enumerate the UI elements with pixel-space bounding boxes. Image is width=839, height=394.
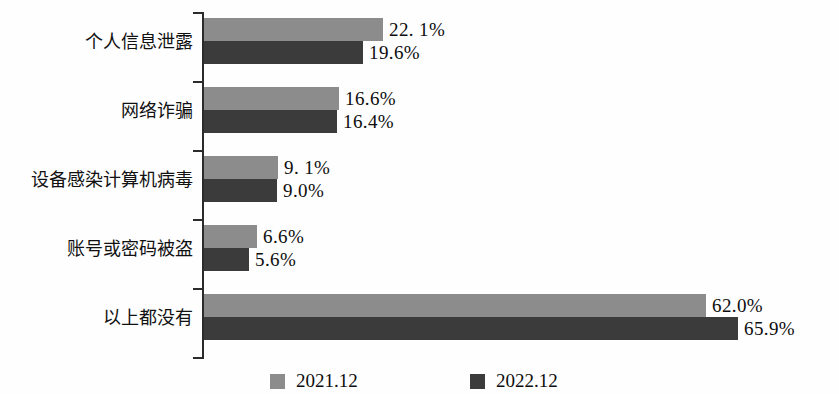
- axis-tick: [193, 81, 203, 83]
- axis-tick: [193, 357, 203, 359]
- bar-value-2022-12-4: 65.9%: [744, 317, 795, 340]
- legend-label-2021-12: 2021.12: [296, 370, 358, 392]
- bar-value-2022-12-3: 5.6%: [255, 248, 296, 271]
- legend-swatch-icon-2022-12: [470, 374, 485, 389]
- category-label-2: 设备感染计算机病毒: [0, 170, 193, 190]
- legend-label-2022-12: 2022.12: [496, 370, 558, 392]
- bar-value-2021-12-2: 9. 1%: [284, 156, 330, 179]
- bar-chart: 个人信息泄露 22. 1% 19.6% 网络诈骗 16.6% 16.4% 设备感…: [0, 0, 839, 394]
- bar-2021-12-3: [204, 225, 257, 248]
- bar-value-2022-12-0: 19.6%: [369, 41, 420, 64]
- category-label-1: 网络诈骗: [0, 101, 193, 121]
- category-label-0: 个人信息泄露: [0, 32, 193, 52]
- axis-tick: [193, 219, 203, 221]
- bar-value-2022-12-1: 16.4%: [343, 110, 394, 133]
- bar-value-2021-12-4: 62.0%: [712, 294, 763, 317]
- bar-2022-12-1: [204, 110, 337, 133]
- bar-2021-12-4: [204, 294, 706, 317]
- bar-2022-12-0: [204, 41, 363, 64]
- bar-2021-12-1: [204, 87, 339, 110]
- category-label-4: 以上都没有: [0, 308, 193, 328]
- bar-2022-12-4: [204, 317, 738, 340]
- bar-value-2022-12-2: 9.0%: [283, 179, 324, 202]
- bar-2021-12-2: [204, 156, 278, 179]
- bar-value-2021-12-1: 16.6%: [345, 87, 396, 110]
- category-label-3: 账号或密码被盗: [0, 239, 193, 259]
- bar-value-2021-12-3: 6.6%: [263, 225, 304, 248]
- axis-tick: [193, 288, 203, 290]
- bar-2022-12-3: [204, 248, 249, 271]
- legend-swatch-icon-2021-12: [270, 374, 285, 389]
- axis-tick: [193, 150, 203, 152]
- bar-2022-12-2: [204, 179, 277, 202]
- bar-value-2021-12-0: 22. 1%: [389, 18, 445, 41]
- plot-area: 个人信息泄露 22. 1% 19.6% 网络诈骗 16.6% 16.4% 设备感…: [0, 0, 839, 366]
- axis-tick: [193, 12, 203, 14]
- chart-legend: 2021.12 2022.12: [0, 370, 839, 394]
- bar-2021-12-0: [204, 18, 383, 41]
